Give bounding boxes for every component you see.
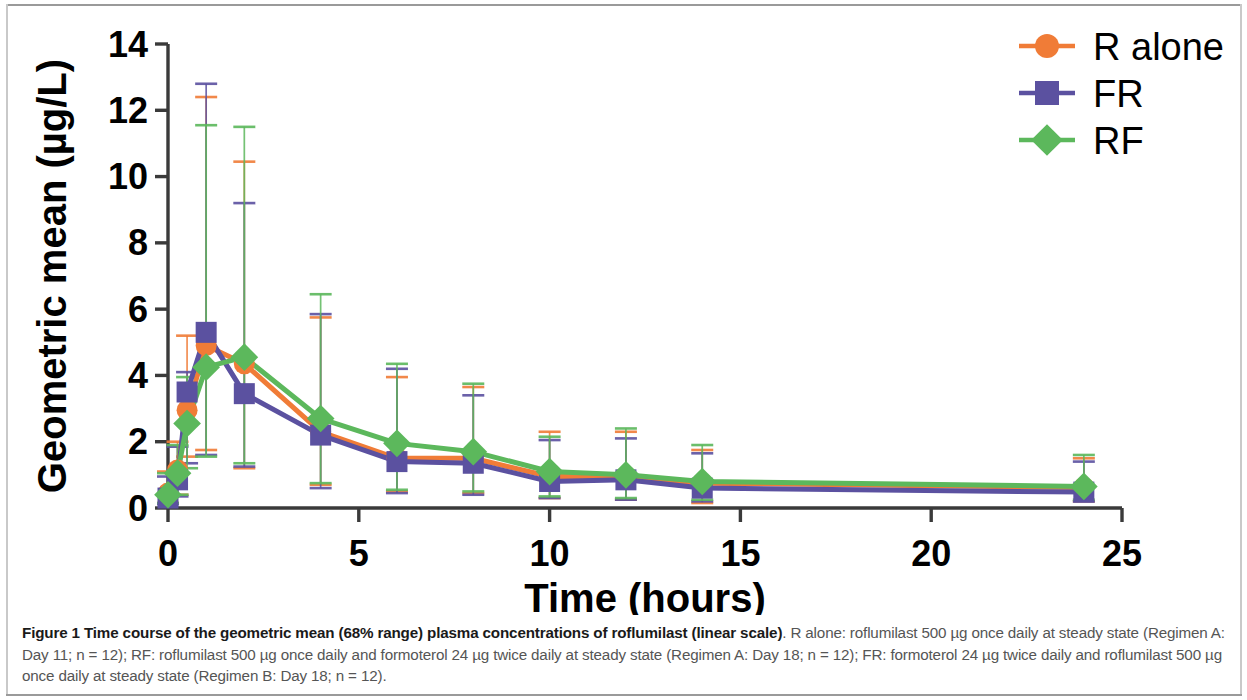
legend-marker	[1035, 34, 1059, 58]
legend-item: R alone	[1019, 26, 1224, 68]
figure-frame-bottom	[6, 694, 1242, 696]
line-chart: 02468101214 0510152025 R aloneFRRF Geome…	[0, 0, 1247, 615]
y-axis-tick-label: 2	[128, 421, 148, 462]
figure-caption: Figure 1 Time course of the geometric me…	[22, 622, 1227, 687]
y-axis: 02468101214	[108, 24, 168, 529]
series-markers-group	[154, 322, 1098, 509]
axis-titles: Geometric mean (µg/L)Time (hours)	[30, 59, 766, 615]
legend-label: RF	[1093, 120, 1144, 162]
figure-caption-title: Figure 1 Time course of the geometric me…	[22, 624, 782, 641]
x-axis: 0510152025	[158, 508, 1142, 574]
y-axis-tick-label: 4	[128, 355, 148, 396]
legend-item: FR	[1019, 73, 1144, 115]
y-axis-tick-label: 0	[128, 488, 148, 529]
legend-marker	[1035, 81, 1059, 105]
chart-plot-area: 02468101214 0510152025 R aloneFRRF Geome…	[0, 0, 1247, 615]
y-axis-tick-label: 8	[128, 222, 148, 263]
y-axis-tick-label: 6	[128, 289, 148, 330]
legend-label: FR	[1093, 73, 1144, 115]
x-axis-tick-label: 5	[349, 533, 369, 574]
y-axis-tick-label: 12	[108, 90, 148, 131]
y-axis-title: Geometric mean (µg/L)	[30, 59, 74, 493]
x-axis-tick-label: 10	[530, 533, 570, 574]
error-bars-group	[157, 84, 1095, 504]
chart-legend: R aloneFRRF	[1019, 26, 1224, 162]
data-point-marker	[196, 322, 217, 343]
legend-label: R alone	[1093, 26, 1224, 68]
legend-item: RF	[1019, 120, 1144, 162]
x-axis-title: Time (hours)	[524, 576, 766, 615]
error-bar	[233, 127, 255, 463]
x-axis-tick-label: 25	[1102, 533, 1142, 574]
error-bar	[310, 294, 332, 483]
figure-container: 02468101214 0510152025 R aloneFRRF Geome…	[0, 0, 1247, 700]
data-point-marker	[234, 383, 255, 404]
x-axis-tick-label: 15	[720, 533, 760, 574]
y-axis-tick-label: 14	[108, 24, 148, 65]
error-bar	[462, 384, 484, 492]
legend-marker	[1031, 124, 1063, 156]
y-axis-tick-label: 10	[108, 156, 148, 197]
error-bar	[195, 125, 217, 456]
x-axis-tick-label: 20	[911, 533, 951, 574]
x-axis-tick-label: 0	[158, 533, 178, 574]
data-point-marker	[177, 382, 198, 403]
